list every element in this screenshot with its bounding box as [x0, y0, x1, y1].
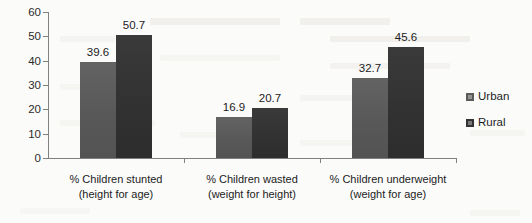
- x-axis-tick-mark: [184, 158, 185, 163]
- category-label-line1: % Children underweight: [330, 173, 447, 185]
- bar-urban-0: [80, 62, 116, 158]
- y-axis-tick-label: 20: [3, 104, 41, 116]
- scan-artifact: [20, 208, 90, 214]
- legend-item-rural[interactable]: Rural: [466, 114, 509, 132]
- y-axis-tick-label: 40: [3, 56, 41, 68]
- bar-value-label: 32.7: [344, 63, 396, 75]
- legend-swatch-icon: [466, 119, 474, 127]
- y-axis-tick-label: 60: [3, 7, 41, 19]
- scan-artifact: [470, 210, 520, 216]
- category-label-line2: (weight for age): [308, 187, 468, 202]
- y-axis-tick-label: 50: [3, 31, 41, 43]
- bar-urban-2: [352, 78, 388, 158]
- bar-chart: 6050403020100 39.650.716.920.732.745.6 %…: [0, 0, 532, 223]
- category-label-line1: % Children stunted: [70, 173, 163, 185]
- y-axis-tick-label: 0: [3, 153, 41, 165]
- bar-value-label: 39.6: [72, 47, 124, 59]
- bar-rural-1: [252, 108, 288, 158]
- legend-label: Urban: [478, 91, 509, 103]
- x-axis-line: [48, 158, 456, 159]
- y-axis-tick-label: 10: [3, 129, 41, 141]
- bar-value-label: 20.7: [244, 93, 296, 105]
- bar-urban-1: [216, 117, 252, 158]
- x-axis-tick-mark: [320, 158, 321, 163]
- y-axis-tick-label: 30: [3, 80, 41, 92]
- category-label-line1: % Children wasted: [206, 173, 298, 185]
- y-axis-labels: 6050403020100: [0, 0, 41, 171]
- legend-item-urban[interactable]: Urban: [466, 88, 509, 106]
- chart-legend: UrbanRural: [466, 88, 509, 140]
- bar-value-label: 50.7: [108, 20, 160, 32]
- legend-label: Rural: [478, 117, 505, 129]
- x-axis-tick-mark: [456, 158, 457, 163]
- bar-value-label: 45.6: [380, 32, 432, 44]
- legend-swatch-icon: [466, 93, 474, 101]
- category-label-2: % Children underweight(weight for age): [308, 172, 468, 202]
